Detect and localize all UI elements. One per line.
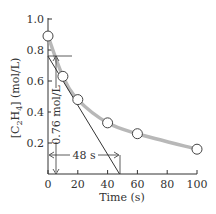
x-axis-title: Time (s) (99, 191, 145, 204)
y-tick-label: 1.0 (27, 13, 45, 26)
data-point-marker (192, 144, 202, 154)
y-tick-label: 0.4 (27, 106, 45, 119)
y-tick-label: 0.6 (27, 75, 45, 88)
data-point-marker (132, 129, 142, 139)
time-interval-label: 48 s (72, 149, 95, 162)
chart: [C2H4] (mol/L) 0.20.40.60.81.0 020406080… (0, 0, 216, 214)
data-point-marker (43, 31, 53, 41)
annotation-time: 48 s (49, 148, 120, 174)
concentration-change-label: 0.76 mol/L (50, 85, 63, 145)
x-tick-label: 80 (160, 178, 174, 191)
x-tick-label: 100 (187, 178, 208, 191)
x-tick-label: 20 (71, 178, 85, 191)
y-tick-label: 0.2 (27, 137, 45, 150)
y-axis-title: [C2H4] (mol/L) (9, 58, 24, 138)
data-points (43, 31, 202, 154)
x-ticks: 020406080100 (45, 170, 208, 191)
data-point-marker (103, 118, 113, 128)
x-tick-label: 60 (130, 178, 144, 191)
x-tick-label: 0 (45, 178, 52, 191)
x-tick-label: 40 (101, 178, 115, 191)
data-point-marker (73, 95, 83, 105)
y-tick-label: 0.8 (27, 44, 45, 57)
data-point-marker (58, 71, 68, 81)
